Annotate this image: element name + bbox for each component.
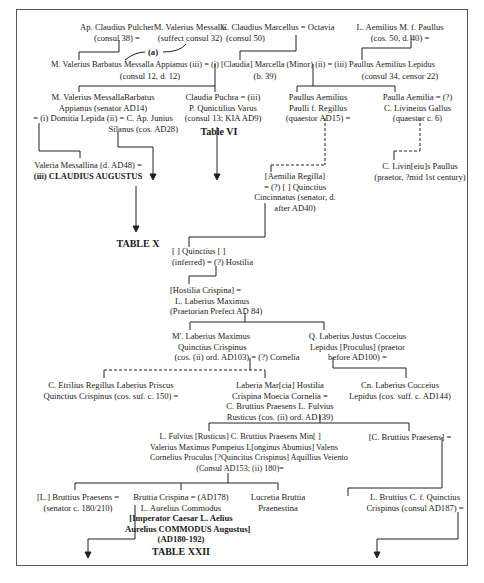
node-claudia-pulchra: Claudia Puchra = (iii) P. Qunictilius Va… xyxy=(178,92,268,124)
node-c-bruttius-praesens: [C. Bruttius Praesens] = xyxy=(365,432,455,443)
node-q-laberius-justus: Q. Laberius Justus Cocceius Lepidus [Pro… xyxy=(300,331,415,363)
node-aemilia-regilla: [Aemilia Regilla] = (?) [ ] Quinctius Ci… xyxy=(250,171,340,213)
table-xxii-reference[interactable]: TABLE XXII xyxy=(150,546,212,557)
table-x-reference[interactable]: TABLE X xyxy=(113,238,163,249)
node-bruttia-crispina: Bruttia Crispina = (AD178) L. Aurelius C… xyxy=(125,492,237,545)
node-messalla-barbatus: M. Valerius MessallaBarbatus Appianus (s… xyxy=(18,92,188,134)
node-lepidus-sub: (consul 34, censor 22) xyxy=(345,71,455,82)
node-l-fulvius-rusticus: L. Fulvius [Rusticus] C. Bruttius Praese… xyxy=(150,432,330,474)
node-c-claudius-marcellus: C. Claudius Marcellus = Octavia (consul … xyxy=(218,22,338,43)
node-quinctius-inferred: [ ] Quinctius [ ] (inferred) = (?) Hosti… xyxy=(172,246,268,267)
node-paullus-regillus: Paullus Aemilius Paulli f. Regillus (qua… xyxy=(278,92,358,124)
node-l-aemilius-paullus: L. Aemilius M. f. Paullus (cos. 50, d. 4… xyxy=(345,22,455,43)
node-cn-laberius-cocceius: Cn. Laberius Cocceius Lepidus (cos. suff… xyxy=(345,380,455,401)
table-vi-reference[interactable]: Table VI xyxy=(197,126,241,137)
node-barbatus-marcella-lepidus: M. Valerius Barbatus Messalla Appianus (… xyxy=(18,60,468,71)
node-m-laberius-maximus: M'. Laberius Maximus Quinctius Crispinus… xyxy=(172,331,302,363)
node-c-etrilius-regillus: C. Etrilius Regillus Laberius Priscus Qu… xyxy=(40,380,182,401)
node-l-bruttius-quinctius: L. Bruttius C. f. Quinctius Crispinus (c… xyxy=(365,492,465,513)
node-barbatus-sub: (consul 12, d. 12) xyxy=(80,71,220,82)
node-hostilia-crispina: [Hostilia Crispina] = L. Laberius Maximu… xyxy=(170,285,282,317)
node-lucretia-bruttia: Lucretia Bruttia Praenestina xyxy=(243,492,313,513)
link-label-a: (a) xyxy=(148,47,158,57)
node-marcella-sub: (b. 39) xyxy=(245,71,285,82)
node-l-bruttius-praesens: [L.] Bruttius Praesens = (senator c. 180… xyxy=(32,492,124,513)
node-livineius-paullus: C. Livin[eiu]s Paullus (praetor, ?mid 1s… xyxy=(368,161,472,182)
node-paulla-aemilia: Paulla Aemilia = (?) C. Livineius Gallus… xyxy=(370,92,465,124)
node-valeria-messallina: Valeria Messallina (d. AD48) = (iii) CLA… xyxy=(33,160,143,181)
node-laberia-marcia: Laberia Mar[cia] Hostilia Crispina Moeci… xyxy=(225,380,335,422)
